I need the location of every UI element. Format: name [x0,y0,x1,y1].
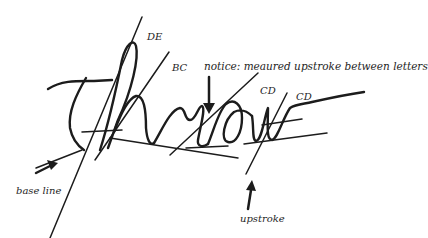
r-stroke [154,106,208,146]
label-bc: BC [172,63,187,73]
label-cd-2: CD [296,92,312,102]
label-de: DE [147,32,162,42]
t-stem-stroke [70,78,86,150]
base-line-segment-4 [186,146,228,148]
base-line-segment-1 [36,150,82,168]
label-cd-1: CD [260,86,276,96]
upstroke-arrow-icon [246,180,256,209]
slant-line-de [50,17,142,238]
o-stroke [208,102,252,144]
base-line-segment-2 [82,130,122,132]
label-base-line: base line [16,186,61,196]
label-notice: notice: meaured upstroke between letters [204,61,428,72]
slant-lines [50,17,287,238]
label-upstroke: upstroke [240,214,285,224]
base-line-segment-5 [244,133,327,144]
notice-arrow-icon [203,77,215,114]
slant-line-bc [95,52,169,160]
base-line-segment-3 [110,138,238,158]
slant-line-cd-1 [170,73,258,155]
h-loop-stroke [100,42,137,150]
